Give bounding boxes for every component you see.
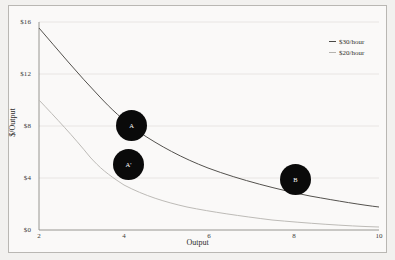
y-tick-label-0: $0 bbox=[5, 226, 31, 234]
series-line-30-per-hour bbox=[39, 28, 379, 207]
legend-label-20-per-hour: $20/hour bbox=[339, 49, 364, 57]
x-axis-title: Output bbox=[0, 238, 395, 247]
gridlines bbox=[39, 22, 379, 178]
data-point-marker-a: A bbox=[116, 110, 147, 141]
legend-line-icon-20-per-hour bbox=[329, 52, 336, 53]
legend-item-30-per-hour: $30/hour bbox=[329, 36, 391, 47]
chart-figure: $0 $4 $8 $12 $16 2 4 6 8 10 Output $/Out… bbox=[0, 0, 395, 260]
legend-item-20-per-hour: $20/hour bbox=[329, 47, 391, 58]
legend-line-icon-30-per-hour bbox=[329, 41, 336, 42]
series-line-20-per-hour bbox=[39, 100, 379, 227]
legend: $30/hour $20/hour bbox=[329, 36, 391, 58]
y-tick-label-4: $4 bbox=[5, 174, 31, 182]
y-tick-label-12: $12 bbox=[5, 70, 31, 78]
y-tick-label-16: $16 bbox=[5, 18, 31, 26]
legend-label-30-per-hour: $30/hour bbox=[339, 38, 364, 46]
y-axis-title: $/Output bbox=[8, 93, 17, 153]
data-point-marker-a-prime: A' bbox=[113, 149, 144, 180]
data-point-marker-b: B bbox=[280, 164, 311, 195]
